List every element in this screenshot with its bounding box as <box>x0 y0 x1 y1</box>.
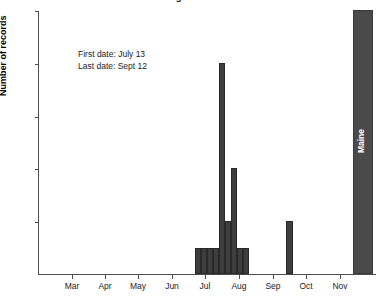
y-tick-mark-6 <box>35 117 39 118</box>
x-tick-mark-sep <box>273 275 274 279</box>
x-tick-label-aug: Aug <box>231 281 246 291</box>
x-tick-mark-may <box>138 275 139 279</box>
x-tick-label-jul: Jul <box>200 281 211 291</box>
x-tick-label-sep: Sep <box>265 281 280 291</box>
annotation-last-date: Last date: Sept 12 <box>78 60 147 72</box>
x-tick-mark-jul <box>205 275 206 279</box>
x-tick-label-nov: Nov <box>332 281 347 291</box>
y-tick-mark-10 <box>35 11 39 12</box>
state-bar-label: Maine <box>356 129 366 153</box>
x-tick-mark-aug <box>239 275 240 279</box>
annotation-first-date: First date: July 13 <box>78 48 147 60</box>
x-tick-mark-nov <box>340 275 341 279</box>
x-tick-label-apr: Apr <box>98 281 111 291</box>
x-tick-label-jun: Jun <box>165 281 179 291</box>
chart-figure: Number of records of ... in our region N… <box>0 0 380 300</box>
y-axis-label: Number of records <box>0 15 8 96</box>
x-tick-label-oct: Oct <box>299 281 312 291</box>
x-tick-mark-mar <box>72 275 73 279</box>
plot-area: 246810 Maine First date: July 13 Last da… <box>38 11 376 275</box>
x-tick-mark-apr <box>105 275 106 279</box>
y-tick-mark-4 <box>35 169 39 170</box>
x-tick-mark-jun <box>172 275 173 279</box>
x-tick-mark-oct <box>306 275 307 279</box>
y-tick-mark-2 <box>35 222 39 223</box>
bar <box>243 248 249 274</box>
x-tick-label-mar: Mar <box>65 281 80 291</box>
x-tick-label-may: May <box>130 281 146 291</box>
y-tick-mark-8 <box>35 64 39 65</box>
state-bar-maine: Maine <box>353 10 373 274</box>
bar <box>286 221 293 274</box>
annotation-box: First date: July 13 Last date: Sept 12 <box>72 45 153 76</box>
chart-title: Number of records of ... in our region <box>28 0 358 2</box>
